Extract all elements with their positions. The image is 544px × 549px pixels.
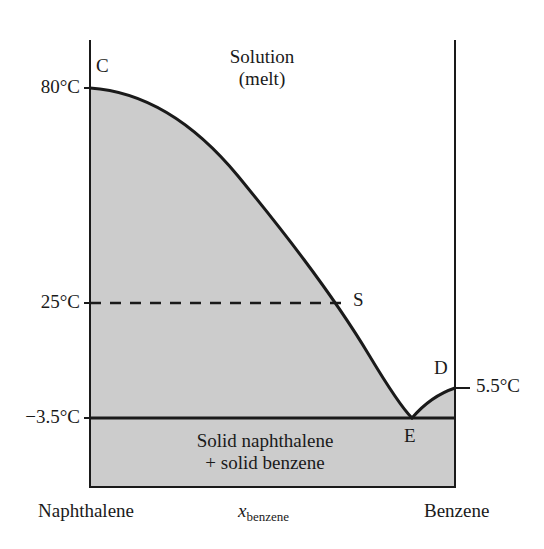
x-axis-variable-label: xbenzene [238, 500, 289, 521]
point-label-s: S [353, 289, 364, 310]
x-axis-label-right: Benzene [424, 500, 489, 521]
x-axis-label-left: Naphthalene [38, 500, 134, 521]
region-label-solid-line1: Solid naphthalene [155, 430, 375, 451]
point-label-c: C [96, 55, 109, 76]
y-tick-label-25c: 25°C [0, 291, 80, 312]
shaded-benzene-region [412, 388, 455, 418]
x-axis-subscript: benzene [246, 509, 289, 524]
point-label-d: D [434, 357, 448, 378]
phase-diagram: 80°C 25°C −3.5°C C S D E 5.5°C Solution … [0, 0, 544, 549]
region-label-solid-line2: + solid benzene [155, 452, 375, 473]
y-tick-label-80c: 80°C [0, 76, 80, 97]
annotation-5-5c: 5.5°C [476, 375, 520, 396]
shaded-liquidus-region [90, 88, 412, 418]
point-label-e: E [404, 425, 416, 446]
region-label-solution-line2: (melt) [192, 68, 332, 89]
y-tick-label-minus3-5c: −3.5°C [0, 406, 80, 427]
region-label-solution-line1: Solution [192, 46, 332, 67]
